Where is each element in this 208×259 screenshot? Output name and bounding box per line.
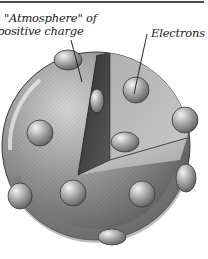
electron-icon [123, 77, 149, 103]
electron-icon [111, 132, 139, 152]
cutaway-wedge [78, 52, 190, 175]
electron-icon [8, 183, 32, 209]
electron-icon [98, 229, 126, 245]
electrons-label: Electrons [151, 27, 205, 40]
electron-icon [172, 107, 198, 133]
electron-icon [129, 181, 155, 207]
atom-model-figure: "Atmosphere" of positive charge Electron… [0, 0, 208, 259]
electron-icon [176, 164, 196, 192]
electron-icon [90, 89, 104, 113]
electron-icon [27, 120, 53, 146]
electron-icon [60, 180, 86, 206]
atmosphere-label-line2: positive charge [0, 25, 84, 38]
